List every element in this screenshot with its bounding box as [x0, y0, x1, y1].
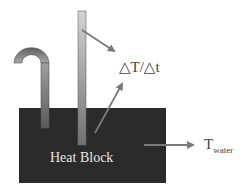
- rate-label: △T/△t: [119, 58, 160, 76]
- t-water-main: T: [204, 136, 213, 152]
- t-water-label: Twater: [204, 136, 233, 155]
- arrow-thermometer: [82, 30, 114, 51]
- diagram-canvas: [0, 0, 247, 192]
- t-water-sub: water: [213, 145, 233, 155]
- heat-block-label: Heat Block: [50, 150, 113, 166]
